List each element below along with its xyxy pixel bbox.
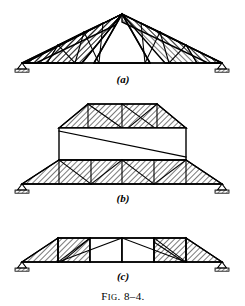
caption-ig: IG — [108, 292, 118, 302]
panel-b-truss: (b) — [15, 104, 229, 205]
panel-a-label: (a) — [117, 73, 130, 86]
panel-b-right-support — [215, 184, 229, 193]
panel-c-truss: (c) — [15, 238, 229, 283]
truss-figure-svg: (a) — [0, 0, 245, 306]
figure-8-4: (a) — [0, 0, 245, 306]
figure-caption: FIG. 8–4. — [101, 290, 144, 302]
panel-a-right-support — [215, 63, 229, 72]
panel-a-left-support — [15, 63, 29, 72]
panel-a-truss: (a) — [15, 14, 229, 86]
panel-c-label: (c) — [117, 270, 129, 283]
panel-c-left-support — [15, 262, 29, 271]
panel-c-center-right-open-panel — [122, 238, 154, 262]
panel-b-left-support — [15, 184, 29, 193]
panel-c-right-support — [215, 262, 229, 271]
caption-rest: . 8–4. — [118, 290, 145, 302]
panel-b-label: (b) — [117, 192, 130, 205]
panel-c-center-left-open-panel — [90, 238, 122, 262]
